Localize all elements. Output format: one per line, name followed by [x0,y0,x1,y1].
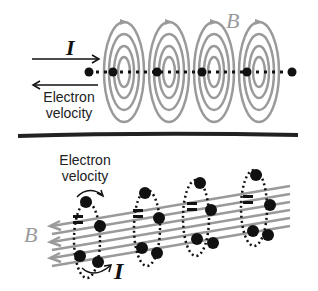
diagram-canvas [0,0,318,291]
electron-velocity-arrow-top [33,81,98,89]
top-field-arrowheads [120,19,263,25]
electron-label-line1: Electron [52,152,118,168]
current-label-top: I [66,35,75,61]
electron-velocity-label-top: Electron velocity [36,89,102,121]
current-label-bottom: I [114,258,123,285]
field-label-top: B [226,8,239,34]
electron-label-line1: Electron [36,89,102,105]
electron-label-line2: velocity [52,168,118,184]
field-label-bottom: B [24,222,37,248]
section-divider [18,134,298,136]
electron-velocity-label-bottom: Electron velocity [52,152,118,184]
electron-circulation-arrow [77,190,103,197]
electron-label-line2: velocity [36,105,102,121]
